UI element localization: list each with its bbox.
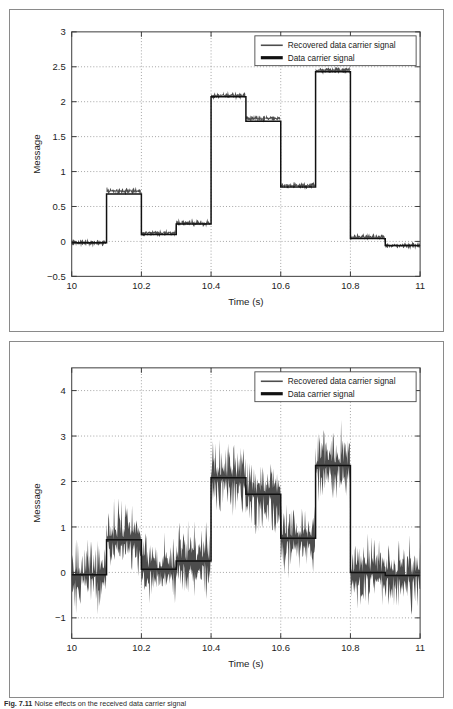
y-tick-label: 1 (60, 522, 65, 533)
x-tick-label: 11 (415, 642, 425, 653)
chart-panel-top: −0.500.511.522.531010.210.410.610.811Tim… (9, 9, 444, 332)
x-tick-label: 10.4 (202, 280, 220, 291)
figure-container: −0.500.511.522.531010.210.410.610.811Tim… (0, 0, 453, 709)
y-tick-label: 2 (60, 96, 65, 107)
y-tick-label: 0 (60, 236, 65, 247)
legend-item-label: Data carrier signal (288, 54, 355, 63)
y-tick-label: 1 (60, 166, 65, 177)
x-tick-label: 10.6 (272, 280, 290, 291)
top-chart-svg: −0.500.511.522.531010.210.410.610.811Tim… (10, 10, 443, 331)
x-tick-label: 10.2 (132, 280, 150, 291)
y-tick-label: 3 (60, 26, 65, 37)
y-tick-label: 0 (60, 567, 65, 578)
y-tick-label: 4 (60, 385, 65, 396)
chart-legend[interactable]: Recovered data carrier signalData carrie… (255, 36, 416, 66)
y-tick-label: 3 (60, 431, 65, 442)
x-tick-label: 10.8 (341, 642, 359, 653)
y-tick-label: 2 (60, 476, 65, 487)
y-tick-label: 1.5 (53, 131, 66, 142)
y-tick-label: 2.5 (53, 61, 66, 72)
legend-item-label: Recovered data carrier signal (288, 377, 396, 386)
top-chart-canvas: −0.500.511.522.531010.210.410.610.811Tim… (10, 10, 443, 331)
x-axis-title: Time (s) (228, 658, 263, 669)
bottom-chart-canvas: −1012341010.210.410.610.811Time (s)Messa… (10, 342, 443, 697)
x-tick-label: 10.8 (341, 280, 359, 291)
x-tick-label: 10.4 (202, 642, 220, 653)
x-axis-title: Time (s) (228, 296, 263, 307)
legend-item-label: Data carrier signal (288, 390, 355, 399)
y-axis-title: Message (31, 483, 42, 523)
chart-panel-bottom: −1012341010.210.410.610.811Time (s)Messa… (9, 341, 444, 698)
y-tick-label: −0.5 (47, 271, 66, 282)
figure-caption: Fig. 7.11 Noise effects on the received … (4, 700, 449, 708)
legend-item-label: Recovered data carrier signal (288, 41, 396, 50)
chart-legend[interactable]: Recovered data carrier signalData carrie… (255, 372, 416, 402)
caption-text: Noise effects on the received data carri… (34, 700, 186, 708)
y-tick-label: 0.5 (53, 201, 66, 212)
y-axis-title: Message (31, 134, 42, 173)
x-tick-label: 10 (66, 280, 77, 291)
bottom-chart-svg: −1012341010.210.410.610.811Time (s)Messa… (10, 342, 443, 697)
x-tick-label: 10.6 (272, 642, 290, 653)
x-tick-label: 10.2 (132, 642, 150, 653)
x-tick-label: 11 (415, 280, 425, 291)
caption-label: Fig. 7.11 (4, 700, 32, 708)
x-tick-label: 10 (66, 642, 77, 653)
y-tick-label: −1 (55, 612, 66, 623)
